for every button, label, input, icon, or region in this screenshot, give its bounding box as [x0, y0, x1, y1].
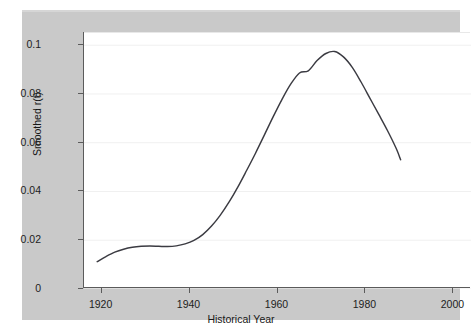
x-tick-1940 — [189, 288, 190, 293]
x-tick-label-2000: 2000 — [441, 298, 464, 310]
x-tick-label-1980: 1980 — [353, 298, 376, 310]
x-tick-1960 — [277, 288, 278, 293]
y-tick-label-0.06: 0.06 — [21, 136, 41, 148]
x-tick-1980 — [364, 288, 365, 293]
plot-area — [83, 32, 470, 288]
y-axis-line — [83, 32, 84, 288]
y-tick-0.02 — [78, 239, 83, 240]
chart-screenshot: Smoothed r(t) Historical Year 1920194019… — [0, 0, 472, 334]
y-tick-0.06 — [78, 142, 83, 143]
y-tick-0.08 — [78, 93, 83, 94]
y-tick-label-0.1: 0.1 — [26, 38, 41, 50]
x-tick-label-1920: 1920 — [89, 298, 112, 310]
y-tick-label-0.04: 0.04 — [21, 184, 41, 196]
plot-svg — [84, 33, 471, 289]
data-series-smoothed-rt — [97, 51, 400, 261]
y-tick-label-0.02: 0.02 — [21, 233, 41, 245]
y-axis-title: Smoothed r(t) — [31, 69, 43, 179]
y-tick-0.04 — [78, 190, 83, 191]
x-tick-1920 — [101, 288, 102, 293]
x-tick-label-1940: 1940 — [177, 298, 200, 310]
gridlines-group — [84, 45, 471, 289]
x-tick-label-1960: 1960 — [265, 298, 288, 310]
y-tick-0.1 — [78, 44, 83, 45]
y-tick-label-0: 0 — [35, 282, 41, 294]
y-tick-0 — [78, 288, 83, 289]
x-axis-title: Historical Year — [22, 313, 460, 325]
y-tick-label-0.08: 0.08 — [21, 87, 41, 99]
figure-panel: Smoothed r(t) Historical Year 1920194019… — [22, 10, 460, 320]
x-tick-2000 — [452, 288, 453, 293]
